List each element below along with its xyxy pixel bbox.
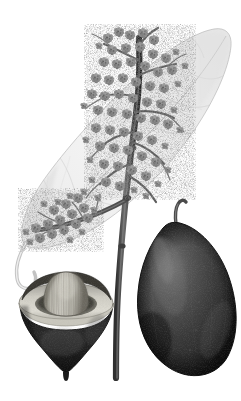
- illustration-canvas: Avocado (Persea americana) botanical pla…: [0, 0, 241, 401]
- botanical-plate: Avocado (Persea americana) botanical pla…: [0, 0, 241, 401]
- branch-node: [118, 243, 125, 248]
